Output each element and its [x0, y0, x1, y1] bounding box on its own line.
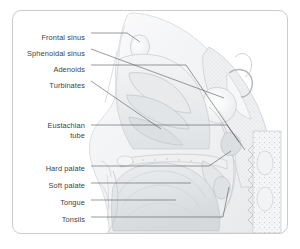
label-line: Hard palate	[46, 164, 85, 173]
label-sphenoidal-sinus: Sphenoidal sinus	[27, 49, 85, 58]
label-line: Sphenoidal sinus	[27, 49, 85, 58]
label-line: tube	[47, 131, 85, 141]
label-line: Adenoids	[53, 65, 85, 74]
label-turbinates: Turbinates	[49, 81, 85, 90]
leader-hard-palate	[91, 151, 231, 166]
label-line: Frontal sinus	[41, 33, 85, 42]
label-line: Turbinates	[49, 81, 85, 90]
leader-sphenoidal-sinus	[91, 49, 224, 98]
label-line: Tongue	[60, 198, 85, 207]
label-hard-palate: Hard palate	[46, 164, 85, 173]
leader-turbinates	[91, 81, 161, 129]
label-frontal-sinus: Frontal sinus	[41, 33, 85, 42]
label-adenoids: Adenoids	[53, 65, 85, 74]
screenshot-root: Frontal sinusSphenoidal sinusAdenoidsTur…	[0, 0, 300, 249]
label-eustachian-tube: Eustachiantube	[47, 121, 85, 140]
label-line: Tonsils	[62, 215, 85, 224]
leader-tonsils	[91, 187, 229, 217]
label-tonsils: Tonsils	[62, 215, 85, 224]
label-line: Soft palate	[49, 181, 85, 190]
leader-frontal-sinus	[91, 33, 140, 42]
label-line: Eustachian	[47, 121, 85, 131]
label-tongue: Tongue	[60, 198, 85, 207]
diagram-panel: Frontal sinusSphenoidal sinusAdenoidsTur…	[12, 10, 288, 234]
label-soft-palate: Soft palate	[49, 181, 85, 190]
leader-eustachian-tube	[91, 125, 245, 150]
